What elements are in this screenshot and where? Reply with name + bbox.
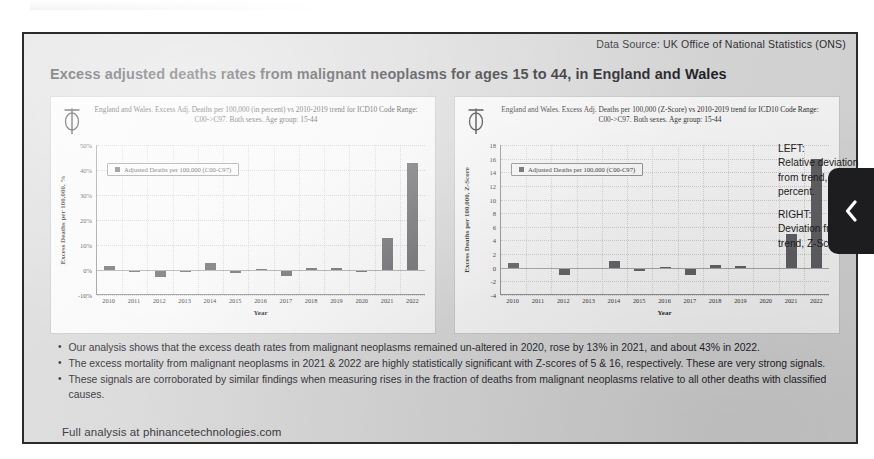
y-tick-label: 8 — [493, 210, 496, 217]
x-tick-label: 2014 — [204, 297, 217, 304]
x-tick-label: 2017 — [684, 297, 697, 304]
y-tick-label: 10% — [80, 242, 92, 249]
y-tick-label: 0% — [83, 267, 92, 274]
plot-wrap-left: Excess Deaths per 100,000, % -10%0%10%20… — [55, 145, 429, 331]
caption-left-heading: LEFT: — [778, 142, 867, 156]
chart-title-left: England and Wales. Excess Adj. Deaths pe… — [89, 104, 423, 125]
y-tick-label: 0 — [493, 264, 496, 271]
zero-baseline — [501, 268, 829, 269]
x-tick-label: 2014 — [608, 297, 621, 304]
charts-row: England and Wales. Excess Adj. Deaths pe… — [50, 96, 840, 334]
x-tick-label: 2018 — [305, 297, 318, 304]
legend-left: Adjusted Deaths per 100,000 (C00-C97) — [107, 163, 239, 176]
bar-2012 — [559, 268, 570, 276]
y-tick-label: 50% — [80, 142, 92, 149]
y-tick-label: 14 — [489, 169, 496, 176]
x-tick-label: 2022 — [810, 297, 823, 304]
gridline-horizontal — [501, 295, 829, 296]
legend-label-left: Adjusted Deaths per 100,000 (C00-C97) — [124, 166, 231, 173]
bullet-marker-icon: • — [54, 372, 62, 387]
legend-swatch-icon — [519, 167, 524, 172]
x-tick-label: 2021 — [785, 297, 798, 304]
y-axis-label-text-right: Excess Deaths per 100,000, Z-Score — [463, 167, 471, 273]
y-tick-label: -2 — [491, 278, 497, 285]
x-tick-label: 2011 — [128, 297, 140, 304]
y-tick-label: 10 — [489, 196, 496, 203]
x-tick-label: 2010 — [506, 297, 519, 304]
slide-card: Data Source: UK Office of National Stati… — [22, 32, 858, 444]
phinance-logo-icon — [59, 104, 85, 136]
page-title: Excess adjusted deaths rates from malign… — [50, 66, 840, 82]
y-ticks-left: -10%0%10%20%30%40%50% — [68, 145, 94, 295]
y-tick-label: 16 — [489, 155, 496, 162]
x-tick-label: 2010 — [102, 297, 115, 304]
x-tick-label: 2013 — [582, 297, 595, 304]
bullet-item: •These signals are corroborated by simil… — [54, 372, 854, 402]
y-ticks-right: -4-2024681012141618 — [472, 145, 498, 295]
bullet-text: The excess mortality from malignant neop… — [69, 356, 854, 371]
x-axis-label-right: Year — [500, 309, 829, 317]
x-tick-label: 2012 — [153, 297, 166, 304]
legend-right: Adjusted Deaths per 100,000 (C00-C97) — [511, 163, 643, 176]
bullet-item: •The excess mortality from malignant neo… — [54, 356, 854, 371]
bar-2017 — [685, 268, 696, 275]
bar-2014 — [609, 261, 620, 268]
x-tick-label: 2011 — [532, 297, 544, 304]
x-tick-label: 2015 — [229, 297, 242, 304]
x-tick-label: 2020 — [355, 297, 368, 304]
x-tick-label: 2018 — [709, 297, 722, 304]
x-tick-label: 2019 — [330, 297, 343, 304]
x-tick-label: 2013 — [178, 297, 191, 304]
bullet-marker-icon: • — [54, 356, 62, 371]
chart-panel-percent: England and Wales. Excess Adj. Deaths pe… — [50, 96, 436, 334]
plot-wrap-right: Excess Deaths per 100,000, Z-Score -4-20… — [459, 145, 833, 331]
footer-note: Full analysis at phinancetechnologies.co… — [62, 426, 282, 438]
bar-2014 — [205, 263, 216, 270]
x-tick-label: 2019 — [734, 297, 747, 304]
y-axis-label-text-left: Excess Deaths per 100,000, % — [59, 176, 67, 265]
data-source-bar: Data Source: UK Office of National Stati… — [596, 36, 850, 52]
y-tick-label: 2 — [493, 251, 496, 258]
bar-2022 — [407, 163, 418, 271]
chevron-left-icon — [844, 200, 858, 222]
bar-2021 — [382, 238, 393, 271]
bullet-text: These signals are corroborated by simila… — [69, 372, 854, 402]
carousel-prev-button[interactable] — [828, 168, 874, 254]
x-tick-label: 2016 — [254, 297, 267, 304]
bullet-item: •Our analysis shows that the excess deat… — [54, 340, 854, 355]
chart-header-left: England and Wales. Excess Adj. Deaths pe… — [55, 101, 429, 144]
gridline-horizontal — [97, 295, 425, 296]
chart-title-right: England and Wales. Excess Adj. Deaths pe… — [493, 104, 827, 125]
legend-label-right: Adjusted Deaths per 100,000 (C00-C97) — [528, 166, 635, 173]
x-tick-label: 2017 — [280, 297, 293, 304]
x-tick-label: 2016 — [658, 297, 671, 304]
bullet-list: •Our analysis shows that the excess deat… — [54, 340, 854, 403]
legend-swatch-icon — [115, 167, 120, 172]
bullet-marker-icon: • — [54, 340, 62, 355]
x-tick-label: 2021 — [381, 297, 394, 304]
y-tick-label: 40% — [80, 167, 92, 174]
y-tick-label: -4 — [491, 292, 497, 299]
y-tick-label: 18 — [489, 142, 496, 149]
bullet-text: Our analysis shows that the excess death… — [69, 340, 854, 355]
y-tick-label: 20% — [80, 217, 92, 224]
x-tick-label: 2022 — [406, 297, 419, 304]
x-ticks-right: 2010201120122013201420152016201720182019… — [500, 297, 829, 309]
y-tick-label: -10% — [78, 292, 92, 299]
x-axis-label-left: Year — [96, 309, 425, 317]
x-ticks-left: 2010201120122013201420152016201720182019… — [96, 297, 425, 309]
photo-edge-artifact — [30, 0, 330, 10]
y-tick-label: 30% — [80, 192, 92, 199]
y-tick-label: 6 — [493, 223, 496, 230]
chart-header-right: England and Wales. Excess Adj. Deaths pe… — [459, 101, 833, 144]
x-tick-label: 2012 — [557, 297, 570, 304]
x-tick-label: 2015 — [633, 297, 646, 304]
plot-area-left: Adjusted Deaths per 100,000 (C00-C97) — [96, 145, 425, 295]
zero-baseline — [97, 270, 425, 271]
data-source-text: Data Source: UK Office of National Stati… — [596, 38, 846, 50]
y-tick-label: 12 — [489, 182, 496, 189]
y-tick-label: 4 — [493, 237, 496, 244]
x-tick-label: 2020 — [759, 297, 772, 304]
phinance-logo-icon — [463, 104, 489, 136]
